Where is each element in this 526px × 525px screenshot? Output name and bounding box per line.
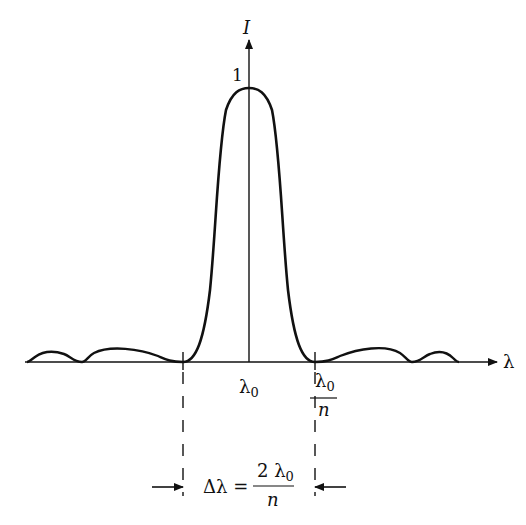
intensity-axis-label: I <box>242 17 251 38</box>
lambda-axis-label: λ <box>503 351 514 372</box>
lambda-zero-label: λ0 <box>239 376 259 400</box>
left-side-lobe-1 <box>82 349 183 362</box>
intensity-diagram: I 1 λ λ0 λ0 n Δλ = 2 λ0 n <box>0 0 526 525</box>
left-side-lobe-2 <box>27 352 82 362</box>
delta-lambda-numerator: 2 λ0 <box>257 460 294 484</box>
lambda-zero-over-n-numerator: λ0 <box>315 370 335 394</box>
right-side-lobe-1 <box>315 348 412 362</box>
delta-lambda-denominator: n <box>267 489 279 510</box>
lambda-zero-over-n-denominator: n <box>318 399 330 420</box>
right-side-lobe-2 <box>412 352 459 362</box>
delta-lambda-label: Δλ = <box>203 476 248 497</box>
peak-value-label: 1 <box>232 65 243 85</box>
